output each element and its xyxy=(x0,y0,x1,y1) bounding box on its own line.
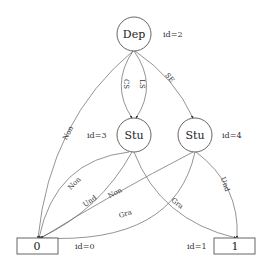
node-dep: Dep id=2 xyxy=(117,17,182,51)
node-stu3: Stu id=3 xyxy=(87,118,151,152)
edge-stu3-to-1-gra xyxy=(134,152,236,238)
edge-label: Und xyxy=(81,194,98,209)
edge-label: CS xyxy=(122,79,130,89)
node-id-label: id=1 xyxy=(187,242,206,251)
edge-label: Non xyxy=(107,186,124,200)
node-label: 1 xyxy=(232,240,239,253)
edge-label: Gra xyxy=(118,208,133,220)
node-label: Stu xyxy=(185,129,204,142)
edge-label: SE xyxy=(163,71,175,84)
edge-label: Und xyxy=(219,176,232,193)
node-stu4: Stu id=4 xyxy=(178,118,241,152)
node-leaf0: 0 id=0 xyxy=(17,238,94,254)
node-id-label: id=2 xyxy=(163,30,182,39)
node-label: Dep xyxy=(123,28,145,41)
edge-label: LS xyxy=(138,79,146,89)
node-label: 0 xyxy=(34,240,41,253)
edge-dep-to-0-non xyxy=(38,51,133,238)
node-leaf1: 1 id=1 xyxy=(187,238,255,254)
edge-stu4-to-1-und xyxy=(196,152,237,238)
edge-label: Non xyxy=(61,124,75,141)
node-id-label: id=0 xyxy=(75,242,94,251)
node-id-label: id=4 xyxy=(222,131,241,140)
node-id-label: id=3 xyxy=(87,131,106,140)
decision-diagram: Non CS LS SE Non Und Gra Non Gra Und Dep… xyxy=(0,0,269,271)
node-label: Stu xyxy=(124,129,143,142)
edge-label: Gra xyxy=(170,196,185,210)
